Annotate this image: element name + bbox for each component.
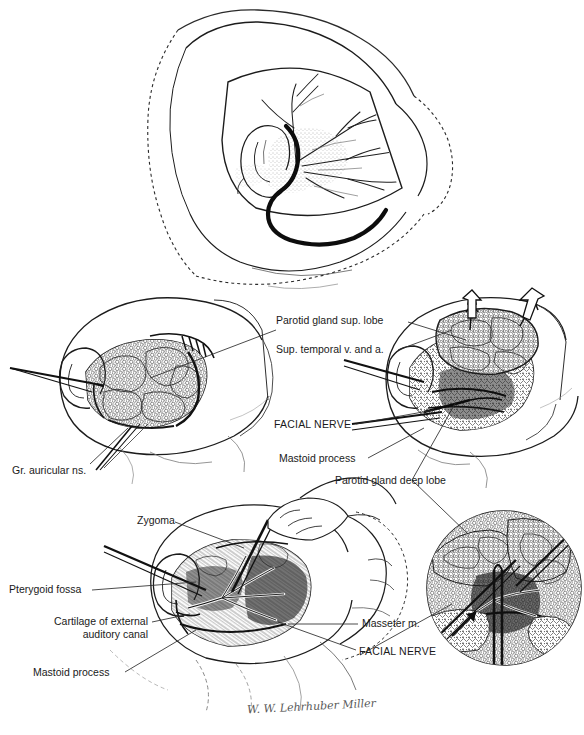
label-pterygoid-fossa: Pterygoid fossa — [9, 583, 81, 596]
label-cartilage-external-auditory-canal-line1: Cartilage of external — [0, 615, 148, 628]
label-facial-nerve-bottom: FACIAL NERVE — [359, 645, 436, 658]
panel-bottom-right-inset — [427, 511, 584, 672]
label-gr-auricular-ns: Gr. auricular ns. — [12, 464, 86, 477]
label-parotid-gland-deep-lobe: Parotid gland deep lobe — [335, 474, 446, 487]
label-sup-temporal-vessels: Sup. temporal v. and a. — [276, 343, 384, 356]
label-zygoma: Zygoma — [137, 514, 175, 527]
panel-top-head-overview — [148, 10, 453, 289]
label-facial-nerve-middle: FACIAL NERVE — [274, 418, 351, 431]
label-parotid-gland-sup-lobe: Parotid gland sup. lobe — [276, 314, 383, 327]
label-masseter-m: Masseter m. — [362, 617, 420, 630]
panel-middle-left-flap — [10, 298, 273, 484]
label-mastoid-process-bottom: Mastoid process — [33, 666, 109, 679]
label-mastoid-process-middle: Mastoid process — [279, 452, 355, 465]
label-cartilage-external-auditory-canal-line2: auditory canal — [0, 628, 148, 641]
